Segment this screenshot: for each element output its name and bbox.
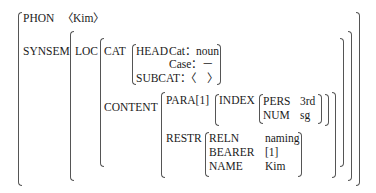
loc-label: LOC bbox=[75, 45, 98, 58]
phon-label: PHON bbox=[23, 12, 54, 25]
synsem-right-bracket bbox=[348, 31, 352, 181]
num-label: NUM bbox=[263, 109, 290, 122]
pers-label: PERS bbox=[263, 95, 291, 108]
restr-label: RESTR bbox=[166, 132, 202, 145]
bearer-value: [1] bbox=[265, 146, 278, 159]
reln-value: naming bbox=[265, 132, 300, 145]
outer-right-bracket bbox=[356, 12, 360, 186]
pers-value: 3rd bbox=[300, 95, 315, 108]
synsem-label: SYNSEM bbox=[23, 45, 70, 58]
index-right-bracket bbox=[318, 94, 322, 124]
bearer-label: BEARER bbox=[209, 146, 254, 159]
subcat: SUBCAT：〈 〉 bbox=[136, 72, 218, 85]
reln-label: RELN bbox=[209, 132, 239, 145]
content-right-bracket bbox=[332, 92, 336, 178]
content-left-bracket bbox=[161, 92, 165, 178]
head-cat: Cat：noun bbox=[169, 45, 219, 58]
name-label: NAME bbox=[209, 160, 243, 173]
synsem-left-bracket bbox=[70, 31, 74, 181]
loc-right-bracket bbox=[340, 38, 344, 167]
outer-left-bracket bbox=[18, 12, 22, 186]
para-label: PARA[1] bbox=[166, 94, 209, 107]
head-label: HEAD bbox=[136, 45, 168, 58]
num-value: sg bbox=[300, 109, 310, 122]
content-label: CONTENT bbox=[104, 101, 158, 114]
name-value: Kim bbox=[265, 160, 285, 173]
index-label: INDEX bbox=[219, 94, 255, 107]
para-right-bracket bbox=[325, 94, 329, 126]
head-case: Case：－ bbox=[169, 58, 213, 71]
phon-value: 〈Kim〉 bbox=[62, 12, 104, 25]
cat-label: CAT bbox=[104, 45, 126, 58]
